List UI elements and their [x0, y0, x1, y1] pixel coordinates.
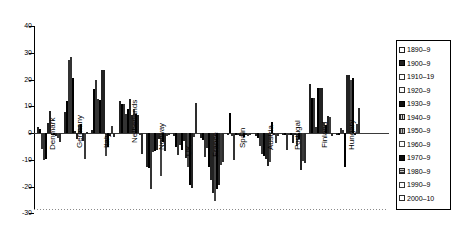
bar-group — [309, 26, 334, 210]
category-label-portugal: Portugal — [293, 120, 302, 150]
legend-swatch-icon — [399, 141, 405, 147]
bar — [103, 70, 105, 133]
bar — [111, 126, 113, 133]
legend-item[interactable]: 1900–9 — [399, 57, 450, 71]
category-label-austria: Austria — [266, 125, 275, 150]
legend-swatch-icon — [399, 168, 405, 174]
legend-item[interactable]: 1970–9 — [399, 151, 450, 165]
bar — [286, 133, 288, 150]
bar-chart: 403020100-10-20-30 DenmarkGermanyItalyNe… — [0, 0, 456, 232]
bar-group — [173, 26, 198, 210]
legend-swatch-icon — [399, 47, 405, 53]
bar — [72, 78, 74, 133]
legend-label: 2000–10 — [407, 195, 434, 202]
legend-item[interactable]: 1930–9 — [399, 97, 450, 111]
category-label-denmark: Denmark — [48, 118, 57, 150]
category-label-france: France — [211, 132, 220, 157]
legend-swatch-icon — [399, 155, 405, 161]
bar — [84, 133, 86, 159]
legend-item[interactable]: 1990–9 — [399, 178, 450, 192]
bar — [113, 133, 115, 137]
bar — [249, 133, 251, 135]
legend-label: 1900–9 — [407, 60, 430, 67]
bar — [195, 103, 197, 133]
bar-group — [146, 26, 171, 210]
legend-label: 1960–9 — [407, 141, 430, 148]
bar — [358, 108, 360, 133]
legend-item[interactable]: 2000–10 — [399, 192, 450, 206]
legend-swatch-icon — [399, 114, 405, 120]
y-axis-tick-label: 20 — [10, 76, 32, 83]
legend-swatch-icon — [399, 195, 405, 201]
bar-group — [91, 26, 116, 210]
category-label-norway: Norway — [157, 123, 166, 150]
legend-label: 1930–9 — [407, 100, 430, 107]
category-label-germany: Germany — [75, 115, 84, 148]
bar — [229, 113, 231, 133]
category-label-spain: Spain — [238, 128, 247, 148]
legend-item[interactable]: 1950–9 — [399, 124, 450, 138]
legend-swatch-icon — [399, 101, 405, 107]
category-label-italy: Italy — [102, 133, 111, 148]
legend-label: 1920–9 — [407, 87, 430, 94]
bar — [193, 133, 195, 137]
legend-label: 1980–9 — [407, 168, 430, 175]
bar — [277, 133, 279, 136]
category-label-hungary: Hungary — [347, 120, 356, 150]
y-axis-tick-label: 40 — [10, 22, 32, 29]
legend-swatch-icon — [399, 182, 405, 188]
y-axis-tick-label: 30 — [10, 49, 32, 56]
bar — [168, 133, 170, 135]
chart-legend: 1890–91900–91910–191920–91930–91940–9195… — [396, 40, 451, 210]
legend-label: 1940–9 — [407, 114, 430, 121]
legend-item[interactable]: 1980–9 — [399, 165, 450, 179]
y-axis-tick-label: -30 — [10, 209, 32, 216]
category-label-netherlands: Netherlands — [130, 100, 139, 143]
bar — [227, 133, 229, 135]
bar — [59, 133, 61, 142]
bar — [338, 133, 340, 135]
bar — [233, 133, 235, 160]
bar — [304, 133, 306, 163]
bar — [222, 133, 224, 162]
bar — [191, 133, 193, 188]
bar-group — [282, 26, 307, 210]
bar-group — [255, 26, 280, 210]
y-axis-tick-label: -20 — [10, 183, 32, 190]
bar-group — [336, 26, 361, 210]
legend-label: 1970–9 — [407, 154, 430, 161]
y-axis-tick-label: 0 — [10, 129, 32, 136]
legend-label: 1910–19 — [407, 73, 434, 80]
legend-item[interactable]: 1920–9 — [399, 84, 450, 98]
bar — [86, 132, 88, 134]
bar — [45, 133, 47, 159]
legend-swatch-icon — [399, 60, 405, 66]
legend-swatch-icon — [399, 74, 405, 80]
bar — [331, 133, 333, 136]
legend-item[interactable]: 1960–9 — [399, 138, 450, 152]
legend-label: 1890–9 — [407, 46, 430, 53]
legend-swatch-icon — [399, 128, 405, 134]
category-label-finland: Finland — [320, 122, 329, 148]
bar — [329, 117, 331, 133]
bar — [141, 133, 143, 154]
legend-item[interactable]: 1910–19 — [399, 70, 450, 84]
legend-item[interactable]: 1940–9 — [399, 111, 450, 125]
y-axis-tick-label: 10 — [10, 102, 32, 109]
legend-swatch-icon — [399, 87, 405, 93]
legend-label: 1990–9 — [407, 181, 430, 188]
category-label-uk: UK — [184, 145, 193, 156]
legend-item[interactable]: 1890–9 — [399, 43, 450, 57]
bar-group — [227, 26, 252, 210]
plot-area — [34, 26, 389, 210]
bar-group — [200, 26, 225, 210]
y-axis-tick-label: -10 — [10, 156, 32, 163]
bar — [344, 133, 346, 167]
legend-label: 1950–9 — [407, 127, 430, 134]
